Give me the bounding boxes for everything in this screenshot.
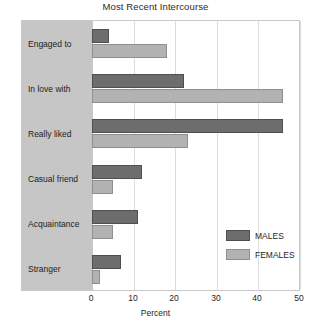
category-label-0: Engaged to bbox=[28, 39, 71, 49]
chart-legend: MALES FEMALES bbox=[226, 228, 298, 266]
legend-swatch-males-icon bbox=[226, 230, 250, 241]
x-axis-title: Percent bbox=[0, 308, 311, 318]
legend-label-males: MALES bbox=[255, 231, 284, 241]
x-tick-0: 0 bbox=[89, 293, 94, 303]
x-tick-30: 30 bbox=[211, 293, 220, 303]
legend-item-males: MALES bbox=[226, 228, 298, 243]
category-label-4: Acquaintance bbox=[28, 219, 80, 229]
x-axis-tick-labels: 01020304050 bbox=[21, 293, 300, 307]
chart-title: Most Recent Intercourse bbox=[0, 1, 311, 12]
x-tick-50: 50 bbox=[294, 293, 303, 303]
category-label-1: In love with bbox=[28, 84, 71, 94]
x-tick-40: 40 bbox=[252, 293, 261, 303]
x-tick-20: 20 bbox=[169, 293, 178, 303]
category-label-3: Casual friend bbox=[28, 174, 78, 184]
legend-swatch-females-icon bbox=[226, 249, 250, 260]
chart-container: Most Recent Intercourse Engaged toIn lov… bbox=[0, 0, 311, 330]
category-label-5: Stranger bbox=[28, 264, 61, 274]
legend-item-females: FEMALES bbox=[226, 247, 298, 262]
x-tick-10: 10 bbox=[128, 293, 137, 303]
legend-label-females: FEMALES bbox=[255, 250, 295, 260]
gridline-50 bbox=[300, 21, 301, 290]
category-label-2: Really liked bbox=[28, 129, 71, 139]
